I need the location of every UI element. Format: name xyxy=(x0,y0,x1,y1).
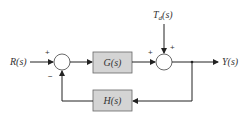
feedback-path-to-sum1 xyxy=(62,71,93,101)
sum2-plus-sign-top: + xyxy=(170,43,175,52)
summing-junction-1 xyxy=(54,54,70,70)
output-label: Y(s) xyxy=(222,56,239,68)
sum2-plus-sign-left: + xyxy=(148,48,153,57)
summing-junction-2 xyxy=(156,54,172,70)
input-label: R(s) xyxy=(9,56,27,68)
disturbance-label: Td(s) xyxy=(153,9,173,22)
feedback-block-label: H(s) xyxy=(103,95,122,107)
sum1-plus-sign: + xyxy=(45,48,50,57)
sum1-minus-sign: − xyxy=(48,72,53,81)
forward-block-label: G(s) xyxy=(104,57,122,69)
disturbance-rest: (s) xyxy=(162,9,173,21)
block-diagram: R(s) + − G(s) + + Td(s) Y(s) H(s) xyxy=(0,0,248,121)
